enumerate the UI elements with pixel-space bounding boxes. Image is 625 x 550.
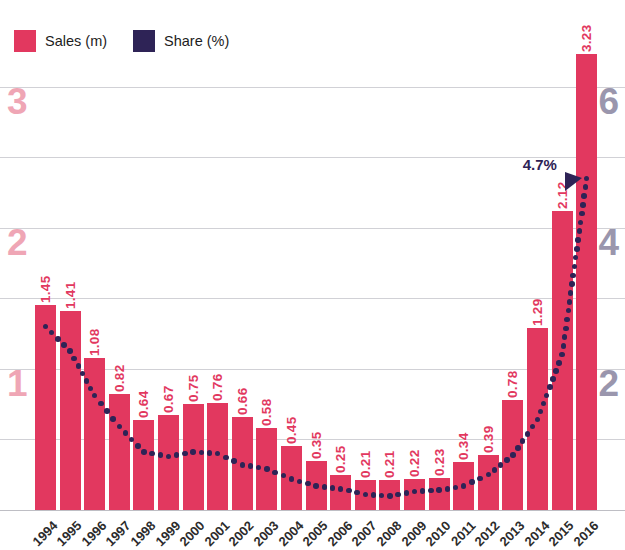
bar-value-label: 1.29 [530, 282, 545, 326]
share-line-dot [322, 484, 328, 490]
bar[interactable] [35, 305, 56, 510]
gridline [0, 87, 625, 88]
share-line-dot [580, 202, 586, 208]
share-line-dot [190, 449, 196, 455]
share-line-dot [577, 228, 583, 234]
share-line-dot [231, 458, 237, 464]
legend-item-share[interactable]: Share (%) [133, 30, 229, 52]
share-line-dot [550, 376, 556, 382]
share-line-dot [123, 430, 129, 436]
share-line-dot [182, 451, 188, 457]
share-line-dot [371, 492, 377, 498]
bar-value-label: 0.76 [210, 357, 225, 401]
share-line-dot [207, 450, 213, 456]
share-annotation-arrow-icon [565, 172, 582, 191]
x-axis-tick-2016: 2016 [567, 518, 602, 550]
share-line-dot [61, 342, 67, 348]
share-line-dot [525, 431, 531, 437]
bar-value-label: 0.34 [456, 416, 471, 460]
share-line-dot [272, 470, 278, 476]
legend-item-sales[interactable]: Sales (m) [14, 30, 107, 52]
share-line-dot [55, 336, 61, 342]
bar-value-label: 0.21 [382, 434, 397, 478]
share-line-dot [98, 401, 104, 407]
share-line-dot [520, 438, 526, 444]
bar-value-label: 0.78 [505, 354, 520, 398]
share-line-dot [428, 488, 434, 494]
share-line-dot [570, 273, 576, 279]
share-line-dot [498, 462, 504, 468]
share-line-dot [346, 488, 352, 494]
bar-value-label: 0.58 [259, 382, 274, 426]
bar[interactable] [576, 54, 597, 510]
bar-value-label: 1.08 [87, 312, 102, 356]
share-line-dot [469, 479, 475, 485]
share-line-dot [240, 462, 246, 468]
share-annotation-label: 4.7% [523, 156, 557, 173]
legend-swatch-share [133, 30, 155, 52]
bar-value-label: 0.64 [136, 374, 151, 418]
share-line-dot [581, 193, 587, 199]
bar[interactable] [133, 420, 154, 510]
y-axis-tick-right: 6 [598, 83, 619, 120]
y-axis-tick-left: 3 [7, 83, 28, 120]
share-line-dot [223, 455, 229, 461]
bar-value-label: 0.25 [333, 429, 348, 473]
share-line-dot [76, 363, 82, 369]
share-line-dot [84, 378, 90, 384]
share-line-dot [395, 492, 401, 498]
share-line-dot [264, 466, 270, 472]
share-line-dot [104, 408, 110, 414]
share-line-dot [289, 476, 295, 482]
share-line-dot [575, 237, 581, 243]
share-line-dot [158, 452, 164, 458]
share-line-dot [477, 476, 483, 482]
bar[interactable] [60, 311, 81, 510]
share-line-dot [404, 490, 410, 496]
share-line-dot [574, 246, 580, 252]
bar[interactable] [158, 415, 179, 510]
share-line-dot [563, 326, 569, 332]
share-line-dot [436, 487, 442, 493]
bar-value-label: 0.35 [309, 415, 324, 459]
legend-swatch-sales [14, 30, 36, 52]
chart-plot-area: 1232461.451.411.080.820.640.670.750.760.… [0, 0, 625, 550]
bar[interactable] [478, 455, 499, 510]
share-line-dot [338, 486, 344, 492]
share-line-dot [556, 360, 562, 366]
share-line-dot [492, 467, 498, 473]
share-line-dot [568, 290, 574, 296]
bar-value-label: 1.41 [63, 265, 78, 309]
share-line-dot [149, 451, 155, 457]
share-line-dot [445, 486, 451, 492]
bar-value-label: 0.22 [407, 433, 422, 477]
share-line-dot [504, 457, 510, 463]
bar-value-label: 3.23 [579, 8, 594, 52]
y-axis-tick-left: 2 [7, 224, 28, 261]
bar-value-label: 1.45 [38, 259, 53, 303]
gridline [0, 228, 625, 229]
gridline [0, 510, 625, 511]
share-line-dot [387, 493, 393, 499]
share-line-dot [562, 334, 568, 340]
bar-value-label: 0.82 [112, 348, 127, 392]
share-line-dot [330, 485, 336, 491]
y-axis-tick-right: 2 [598, 365, 619, 402]
share-line-dot [510, 452, 516, 458]
bar[interactable] [109, 394, 130, 510]
bar-value-label: 0.21 [358, 434, 373, 478]
bar-value-label: 0.75 [186, 358, 201, 402]
bar[interactable] [429, 478, 450, 510]
share-line-dot [547, 384, 553, 390]
bar[interactable] [183, 404, 204, 510]
share-line-dot [305, 481, 311, 487]
share-line-dot [583, 184, 589, 190]
bar[interactable] [552, 211, 573, 510]
share-line-dot [564, 317, 570, 323]
bar-value-label: 0.66 [235, 371, 250, 415]
y-axis-tick-right: 4 [598, 224, 619, 261]
share-line-dot [313, 483, 319, 489]
share-line-dot [569, 281, 575, 287]
bar-value-label: 0.45 [284, 400, 299, 444]
share-line-dot [553, 368, 559, 374]
